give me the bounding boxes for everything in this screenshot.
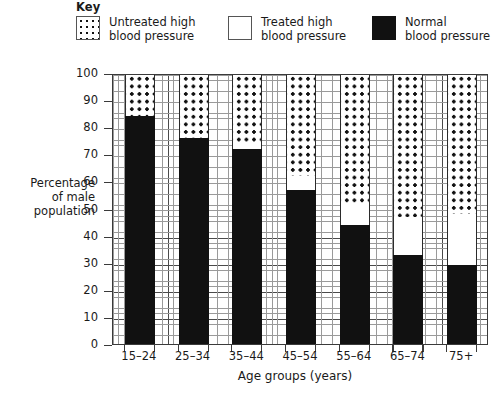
bar <box>179 74 209 344</box>
white-swatch-icon <box>228 16 252 40</box>
dotted-swatch-icon <box>76 16 100 40</box>
bar-segment-treated <box>340 203 370 225</box>
y-tick-label: 20 <box>64 285 98 297</box>
x-axis-title: Age groups (years) <box>100 369 490 383</box>
bar <box>125 74 155 344</box>
y-tick-label: 40 <box>64 231 98 243</box>
x-tick-label: 65–74 <box>379 349 435 363</box>
x-tick-label: 55–64 <box>326 349 382 363</box>
bar-segment-normal <box>179 138 209 344</box>
bar-segment-untreated <box>125 74 155 116</box>
legend-item-treated-label: Treated high blood pressure <box>261 16 346 43</box>
bar-segment-normal <box>393 255 423 344</box>
y-tick-mark <box>104 101 112 102</box>
y-tick-label: 10 <box>64 312 98 324</box>
y-tick-mark <box>104 155 112 156</box>
x-tick-label: 15–24 <box>111 349 167 363</box>
bar-segment-normal <box>125 116 155 344</box>
bar-segment-normal <box>232 149 262 344</box>
bar-segment-untreated <box>232 74 262 143</box>
legend-item-untreated-label: Untreated high blood pressure <box>109 16 195 43</box>
y-tick-mark <box>104 345 112 346</box>
legend-item-normal: Normal blood pressure <box>372 16 490 43</box>
x-tick-label: 35–44 <box>218 349 274 363</box>
y-tick-mark <box>104 128 112 129</box>
legend-title: Key <box>76 0 100 14</box>
black-swatch-icon <box>372 16 396 40</box>
bar <box>340 74 370 344</box>
bar-segment-normal <box>340 225 370 344</box>
bar-segment-treated <box>393 217 423 255</box>
legend-item-treated: Treated high blood pressure <box>228 16 346 43</box>
chart-legend: Key Untreated high blood pressure Treate… <box>76 0 496 58</box>
legend-item-untreated: Untreated high blood pressure <box>76 16 195 43</box>
bar-segment-untreated <box>179 74 209 138</box>
x-tick-label: 75+ <box>433 349 489 363</box>
bar-segment-treated <box>232 143 262 148</box>
y-tick-label: 70 <box>64 149 98 161</box>
x-tick-label: 45–54 <box>272 349 328 363</box>
bar-segment-treated <box>447 214 477 265</box>
y-tick-mark <box>104 264 112 265</box>
bar-segment-untreated <box>340 74 370 203</box>
bar-segment-untreated <box>286 74 316 176</box>
bar-segment-treated <box>286 176 316 190</box>
y-tick-mark <box>104 182 112 183</box>
plot-area <box>112 74 488 345</box>
y-tick-label: 80 <box>64 122 98 134</box>
bar-segment-normal <box>286 190 316 344</box>
y-tick-label: 90 <box>64 95 98 107</box>
y-tick-mark <box>104 318 112 319</box>
legend-item-normal-label: Normal blood pressure <box>405 16 490 43</box>
bar <box>393 74 423 344</box>
x-tick-label: 25–34 <box>165 349 221 363</box>
bar <box>232 74 262 344</box>
y-tick-mark <box>104 210 112 211</box>
bar-segment-normal <box>447 265 477 344</box>
y-tick-mark <box>104 291 112 292</box>
y-tick-label: 0 <box>64 339 98 351</box>
y-tick-mark <box>104 74 112 75</box>
y-tick-label: 30 <box>64 258 98 270</box>
bar <box>447 74 477 344</box>
y-tick-label: 50 <box>64 204 98 216</box>
bar <box>286 74 316 344</box>
bar-segment-untreated <box>447 74 477 214</box>
bar-segment-untreated <box>393 74 423 217</box>
y-tick-mark <box>104 237 112 238</box>
y-tick-label: 60 <box>64 176 98 188</box>
y-tick-label: 100 <box>64 68 98 80</box>
